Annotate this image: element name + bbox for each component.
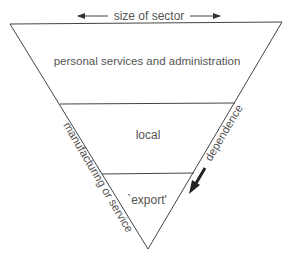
tier-label-export: `export' (127, 193, 167, 207)
dependence-arrow-icon (189, 168, 205, 194)
tier-divider-1 (60, 103, 235, 104)
inverted-triangle-diagram: size of sector personal services and adm… (0, 0, 291, 258)
tier-label-personal-services: personal services and administration (54, 55, 241, 67)
dependence-label: dependence (202, 102, 244, 163)
tier-divider-2 (102, 173, 194, 174)
manufacturing-or-service-label: manufacturing or service (61, 120, 135, 235)
diagram-svg: size of sector personal services and adm… (0, 0, 291, 258)
size-of-sector-label: size of sector (114, 9, 185, 23)
tier-label-local: local (136, 128, 161, 142)
